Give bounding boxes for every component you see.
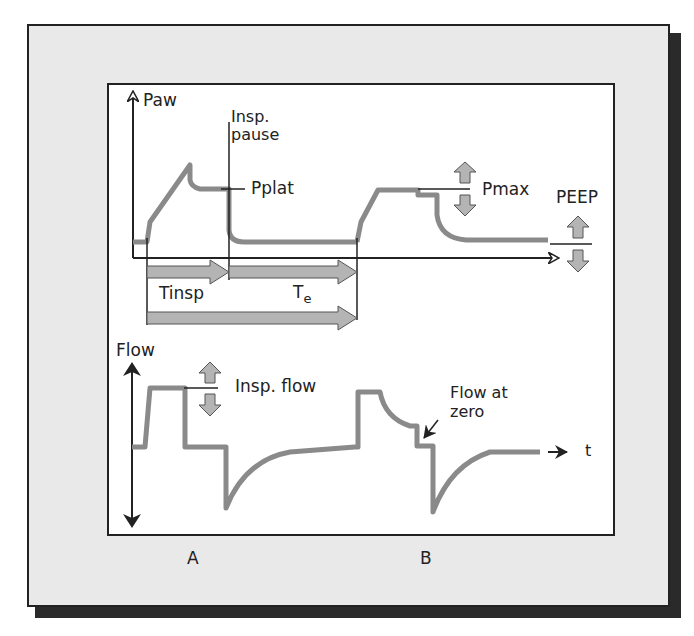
flow-at-zero-pointer-icon xyxy=(424,420,438,438)
flow-at-zero-label-line2: zero xyxy=(450,404,484,420)
tinsp-label: Tinsp xyxy=(159,285,204,302)
total-cycle-arrow xyxy=(147,306,357,330)
waveform-diagram xyxy=(0,0,694,636)
te-arrow xyxy=(229,260,357,284)
flow-at-zero-label-line1: Flow at xyxy=(450,385,508,401)
pressure-axes xyxy=(133,92,558,258)
breath-label-b: B xyxy=(420,550,432,567)
insp-pause-label-line1: Insp. xyxy=(231,109,269,125)
tinsp-arrow xyxy=(147,260,229,284)
te-label: Te xyxy=(293,284,311,305)
te-label-main: T xyxy=(293,282,303,302)
insp-flow-label: Insp. flow xyxy=(235,378,316,395)
te-label-sub: e xyxy=(303,291,311,306)
insp-pause-label-line2: pause xyxy=(231,127,279,143)
pmax-label: Pmax xyxy=(482,181,529,198)
pressure-trace-a xyxy=(133,165,357,242)
peep-label: PEEP xyxy=(556,189,598,206)
breath-label-a: A xyxy=(187,550,199,567)
pplat-label: Pplat xyxy=(251,180,294,197)
time-label: t xyxy=(585,443,591,459)
insp-flow-up-down-arrows-icon xyxy=(199,362,221,416)
paw-axis-label: Paw xyxy=(143,92,177,109)
flow-axis-label: Flow xyxy=(116,342,155,359)
